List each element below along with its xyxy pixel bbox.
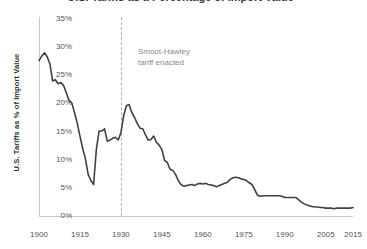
tariff-series-line xyxy=(39,53,353,209)
